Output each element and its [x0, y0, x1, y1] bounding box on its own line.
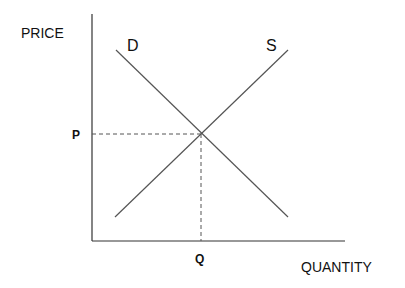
- supply-label: S: [266, 37, 277, 54]
- demand-label: D: [127, 37, 139, 54]
- y-axis-label: PRICE: [21, 25, 64, 41]
- x-axis-label: QUANTITY: [301, 259, 372, 275]
- quantity-label: Q: [195, 252, 204, 266]
- supply-demand-diagram: PRICE QUANTITY D S P Q: [0, 0, 405, 288]
- price-label: P: [72, 128, 80, 142]
